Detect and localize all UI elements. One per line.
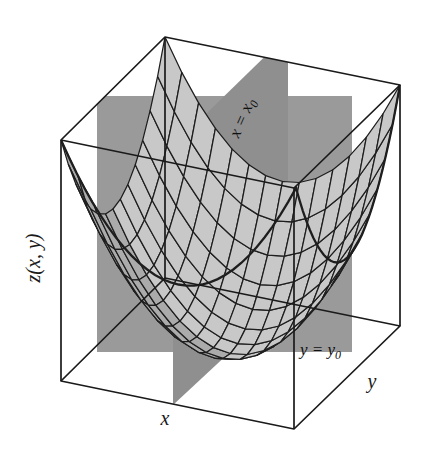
y-axis-label: y xyxy=(366,370,377,393)
surface-plot-figure: z(x, y) x y x = x0 y = y0 xyxy=(0,0,430,455)
z-axis-label: z(x, y) xyxy=(22,233,45,283)
plane-y-label: y = y0 xyxy=(298,340,341,362)
x-axis-label: x xyxy=(160,407,170,429)
